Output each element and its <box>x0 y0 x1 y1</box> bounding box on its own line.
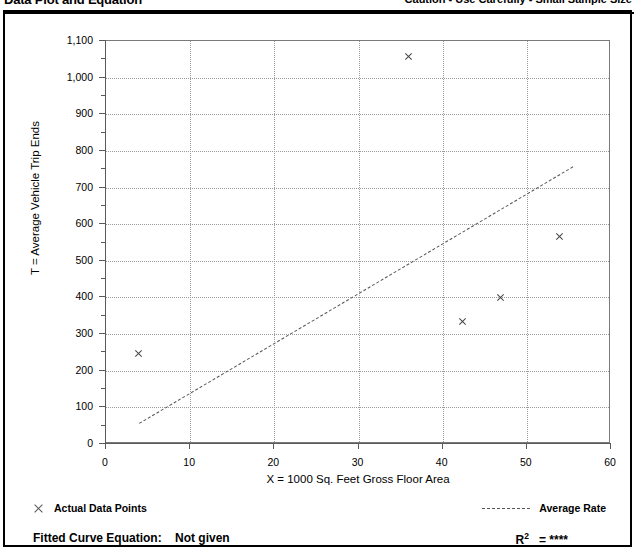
y-axis-tick-label: 800 <box>47 145 93 155</box>
data-point-marker <box>555 232 564 241</box>
r2-number: = **** <box>539 533 568 547</box>
page-title: Data Plot and Equation <box>4 0 142 7</box>
equation-value: Not given <box>175 531 230 545</box>
y-axis-tick-label: 900 <box>47 108 93 118</box>
gridline-horizontal <box>106 224 609 225</box>
x-axis-tick-label: 0 <box>85 456 125 468</box>
gridline-horizontal <box>106 407 609 408</box>
legend-entry-average-rate: Average Rate <box>482 502 606 514</box>
y-axis-tick-label: 100 <box>47 401 93 411</box>
x-axis-tick-label: 40 <box>422 456 462 468</box>
y-axis-minor-tick <box>101 242 105 243</box>
y-axis-tick <box>99 333 105 334</box>
x-axis-tick-label: 10 <box>169 456 209 468</box>
x-axis-tick <box>189 443 190 449</box>
gridline-horizontal <box>106 151 609 152</box>
gridline-vertical <box>359 41 360 442</box>
y-axis-tick <box>99 260 105 261</box>
y-axis-tick <box>99 406 105 407</box>
gridline-vertical <box>527 41 528 442</box>
y-axis-minor-tick <box>101 168 105 169</box>
r2-exponent: 2 <box>524 531 529 541</box>
y-axis-tick <box>99 296 105 297</box>
gridline-vertical <box>274 41 275 442</box>
chart-footer: Fitted Curve Equation: Not given R2 = **… <box>5 531 634 552</box>
card-top-divider <box>5 12 634 14</box>
x-axis-tick-label: 50 <box>506 456 546 468</box>
x-axis-tick <box>358 443 359 449</box>
y-axis-tick-label: 500 <box>47 255 93 265</box>
y-axis-tick <box>99 113 105 114</box>
gridline-horizontal <box>106 261 609 262</box>
y-axis-tick <box>99 370 105 371</box>
gridline-horizontal <box>106 114 609 115</box>
x-axis-tick-label: 60 <box>590 456 630 468</box>
gridline-horizontal <box>106 334 609 335</box>
y-axis-minor-tick <box>101 132 105 133</box>
dashed-line-icon <box>482 508 530 509</box>
y-axis-tick <box>99 150 105 151</box>
x-cross-icon <box>33 503 44 514</box>
y-axis-tick-label: 1,000 <box>47 72 93 82</box>
y-axis-title: T = Average Vehicle Trip Ends <box>29 48 41 348</box>
y-axis-minor-tick <box>101 425 105 426</box>
fitted-curve-equation: Fitted Curve Equation: Not given <box>33 531 230 545</box>
caution-note: Caution - Use Carefully - Small Sample S… <box>405 0 632 5</box>
gridline-horizontal <box>106 371 609 372</box>
gridline-horizontal <box>106 78 609 79</box>
gridline-horizontal <box>106 297 609 298</box>
y-axis-tick-label: 300 <box>47 328 93 338</box>
chart-legend: Actual Data Points Average Rate <box>5 502 634 526</box>
x-axis-tick <box>105 443 106 449</box>
y-axis-line <box>105 40 106 444</box>
y-axis-tick <box>99 40 105 41</box>
y-axis-tick-label: 0 <box>47 438 93 448</box>
x-axis-tick <box>610 443 611 449</box>
x-axis-tick-label: 30 <box>338 456 378 468</box>
data-point-marker <box>458 317 467 326</box>
y-axis-minor-tick <box>101 95 105 96</box>
gridline-vertical <box>190 41 191 442</box>
r-squared-value: R2 = **** <box>516 531 568 547</box>
equation-label: Fitted Curve Equation: <box>33 531 162 545</box>
r2-prefix: R <box>516 533 525 547</box>
y-axis-tick-label: 600 <box>47 218 93 228</box>
x-axis-tick <box>273 443 274 449</box>
y-axis-minor-tick <box>101 351 105 352</box>
x-axis-title: X = 1000 Sq. Feet Gross Floor Area <box>105 473 611 485</box>
chart-card: 01002003004005006007008009001,0001,10001… <box>3 10 632 547</box>
x-axis-tick-label: 20 <box>253 456 293 468</box>
data-point-marker <box>496 293 505 302</box>
y-axis-minor-tick <box>101 388 105 389</box>
legend-label-data-points: Actual Data Points <box>54 502 147 514</box>
y-axis-minor-tick <box>101 205 105 206</box>
y-axis-tick <box>99 223 105 224</box>
y-axis-tick <box>99 77 105 78</box>
y-axis-tick-label: 400 <box>47 291 93 301</box>
y-axis-minor-tick <box>101 315 105 316</box>
plot-area <box>105 40 610 443</box>
legend-entry-data-points: Actual Data Points <box>33 502 147 514</box>
y-axis-tick-label: 1,100 <box>47 35 93 45</box>
x-axis-tick <box>526 443 527 449</box>
y-axis-minor-tick <box>101 278 105 279</box>
data-point-marker <box>134 349 143 358</box>
data-point-marker <box>404 52 413 61</box>
y-axis-minor-tick <box>101 58 105 59</box>
x-axis-tick <box>442 443 443 449</box>
y-axis-tick-label: 200 <box>47 365 93 375</box>
legend-label-average-rate: Average Rate <box>539 502 606 514</box>
y-axis-tick <box>99 187 105 188</box>
y-axis-tick-label: 700 <box>47 182 93 192</box>
